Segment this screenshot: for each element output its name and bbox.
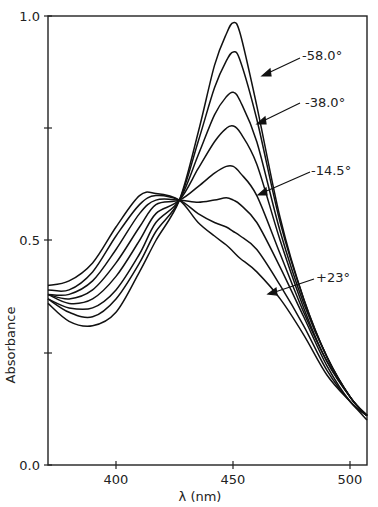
annotation-minus-14-5: -14.5°: [311, 163, 351, 178]
x-tick-label-450: 450: [221, 472, 246, 487]
spectrum-curves: [48, 23, 367, 421]
x-axis-title: λ (nm): [179, 489, 222, 504]
x-tick-label-500: 500: [338, 472, 363, 487]
chart-svg: 1.0 0.5 0.0 400 450 500 λ (nm) Absorbanc…: [0, 0, 378, 507]
y-axis-title: Absorbance: [3, 307, 18, 384]
y-tick-label-1-0: 1.0: [19, 9, 40, 24]
arrow-head-icon: [258, 188, 267, 195]
arrow-head-icon: [257, 117, 266, 124]
annotation-minus-58: -58.0°: [302, 48, 342, 63]
absorbance-spectrum-chart: 1.0 0.5 0.0 400 450 500 λ (nm) Absorbanc…: [0, 0, 378, 507]
x-tick-label-400: 400: [104, 472, 129, 487]
spectrum-curve: [48, 166, 367, 416]
annotation-minus-38: -38.0°: [305, 95, 345, 110]
spectrum-curve: [48, 92, 367, 415]
spectrum-curve: [48, 195, 367, 415]
y-tick-label-0-5: 0.5: [19, 233, 40, 248]
plot-frame: [48, 16, 367, 465]
y-tick-label-0-0: 0.0: [19, 458, 40, 473]
annotation-plus-23: +23°: [316, 270, 350, 285]
arrow-head-icon: [262, 69, 271, 76]
